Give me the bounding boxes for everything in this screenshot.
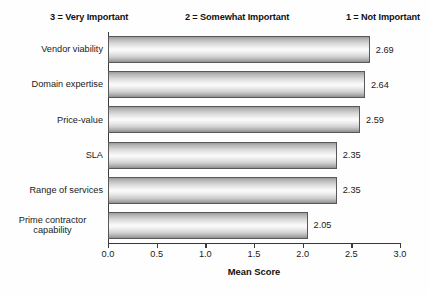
x-axis-tick-label: 1.0 xyxy=(199,249,212,259)
category-label: SLA xyxy=(2,142,103,169)
bar-row: 2.64 xyxy=(108,71,400,98)
bar-value-label: 2.69 xyxy=(376,45,394,55)
category-label: Range of services xyxy=(2,177,103,204)
bar-value-label: 2.05 xyxy=(314,220,332,230)
x-axis-tick xyxy=(205,243,206,248)
bar xyxy=(108,177,337,204)
bar xyxy=(108,106,360,133)
bar xyxy=(108,71,365,98)
category-label: Vendor viability xyxy=(2,36,103,63)
x-axis-tick xyxy=(157,243,158,248)
bar-value-label: 2.35 xyxy=(343,150,361,160)
x-axis-tick xyxy=(254,243,255,248)
bar xyxy=(108,212,308,239)
x-axis-tick-label: 2.0 xyxy=(296,249,309,259)
scale-legend-item-3: 3 = Very Important xyxy=(50,12,128,22)
bar-row: 2.35 xyxy=(108,177,400,204)
x-axis-tick xyxy=(400,243,401,248)
bar xyxy=(108,36,370,63)
x-axis-tick-labels: 0.00.51.01.52.02.53.0 xyxy=(108,249,400,262)
x-axis-tick xyxy=(303,243,304,248)
scale-legend-item-2: 2 = Somewhat Important xyxy=(185,12,289,22)
bar xyxy=(108,142,337,169)
x-axis-tick-label: 2.5 xyxy=(345,249,358,259)
scale-legend: 3 = Very Important 2 = Somewhat Importan… xyxy=(50,10,420,24)
bar-row: 2.69 xyxy=(108,36,400,63)
x-axis-tick-label: 0.0 xyxy=(102,249,115,259)
bar-row: 2.59 xyxy=(108,106,400,133)
x-axis-tick xyxy=(351,243,352,248)
bar-row: 2.35 xyxy=(108,142,400,169)
category-label: Prime contractorcapability xyxy=(2,212,103,239)
bar-row: 2.05 xyxy=(108,212,400,239)
x-axis-tick xyxy=(108,243,109,248)
bar-value-label: 2.35 xyxy=(343,185,361,195)
x-axis-tick-label: 0.5 xyxy=(150,249,163,259)
bar-value-label: 2.59 xyxy=(366,115,384,125)
bar-value-label: 2.64 xyxy=(371,80,389,90)
x-axis-tick-label: 1.5 xyxy=(248,249,261,259)
bar-chart-figure: 3 = Very Important 2 = Somewhat Importan… xyxy=(0,0,429,295)
category-label: Price-value xyxy=(2,106,103,133)
x-axis-tick-label: 3.0 xyxy=(394,249,407,259)
scale-legend-item-1: 1 = Not Important xyxy=(346,12,420,22)
category-label: Domain expertise xyxy=(2,71,103,98)
x-axis-title: Mean Score xyxy=(108,266,400,277)
